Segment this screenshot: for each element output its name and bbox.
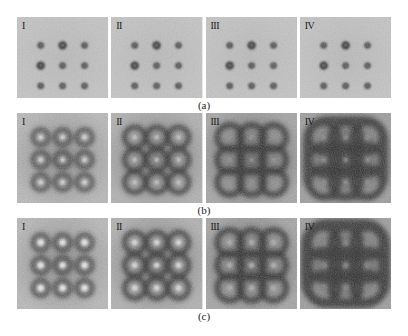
spot-array-image [17,17,108,98]
panel-b-4: IV [300,113,391,203]
panel-label: IV [305,116,315,127]
panel-label: III [211,116,220,127]
panel-a-2: II [111,17,202,98]
panel-label: I [22,116,25,127]
spot-array-image [111,17,202,98]
spot-array-image [17,218,108,309]
figure-row-a: I II III [17,17,391,98]
caption-c: (c) [0,310,408,322]
panel-label: II [116,20,122,31]
panel-b-3: III [206,113,297,203]
panel-label: IV [305,20,315,31]
panel-a-3: III [206,17,297,98]
caption-a: (a) [0,99,408,111]
panel-label: IV [305,221,315,232]
caption-b: (b) [0,204,408,216]
panel-a-4: IV [300,17,391,98]
panel-label: I [22,221,25,232]
panel-b-1: I [17,113,108,203]
panel-c-4: IV [300,218,391,309]
spot-array-image [206,218,297,309]
spot-array-image [206,17,297,98]
panel-label: III [211,221,220,232]
panel-label: I [22,20,25,31]
panel-c-2: II [111,218,202,309]
panel-c-1: I [17,218,108,309]
figure-row-b: I II III [17,113,391,203]
panel-c-3: III [206,218,297,309]
spot-array-image [111,218,202,309]
spot-array-image [17,113,108,203]
panel-label: II [116,221,122,232]
panel-a-1: I [17,17,108,98]
panel-label: II [116,116,122,127]
spot-array-image [111,113,202,203]
panel-label: III [211,20,220,31]
spot-array-image [206,113,297,203]
panel-b-2: II [111,113,202,203]
figure-row-c: I II III [17,218,391,309]
